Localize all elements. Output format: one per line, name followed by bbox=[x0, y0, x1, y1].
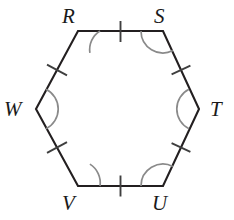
tick-mark-side-WR bbox=[47, 65, 67, 76]
vertex-label-R: R bbox=[62, 6, 75, 27]
angle-arc-R bbox=[90, 31, 100, 53]
vertex-label-T: T bbox=[210, 99, 222, 120]
tick-mark-side-TU bbox=[172, 143, 191, 152]
tick-mark-side-VW bbox=[47, 142, 67, 153]
hexagon-outline bbox=[36, 31, 199, 186]
angle-arc-V bbox=[90, 164, 100, 186]
angle-arc-W bbox=[46, 89, 58, 128]
hexagon-diagram bbox=[0, 0, 234, 220]
vertex-label-V: V bbox=[62, 193, 75, 214]
hexagon-figure: R S T U V W bbox=[0, 0, 234, 220]
vertex-label-S: S bbox=[154, 6, 165, 27]
vertex-label-U: U bbox=[152, 193, 167, 214]
tick-mark-side-ST bbox=[172, 66, 191, 75]
vertex-label-W: W bbox=[4, 99, 22, 120]
angle-arc-T bbox=[177, 89, 189, 128]
